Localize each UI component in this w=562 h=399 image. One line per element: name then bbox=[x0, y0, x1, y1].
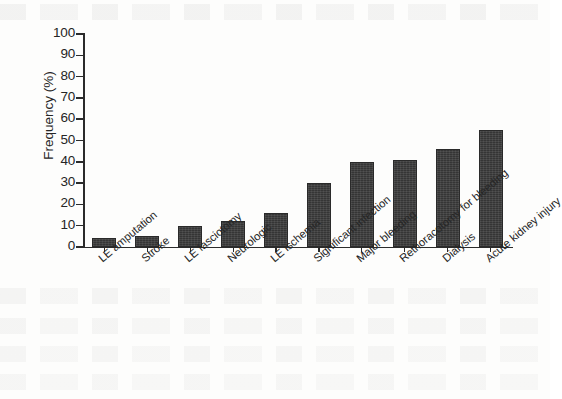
y-tick-label: 10 bbox=[35, 217, 75, 232]
y-tick-mark bbox=[76, 246, 83, 248]
y-tick-mark bbox=[76, 204, 83, 206]
y-tick-label: 20 bbox=[35, 195, 75, 210]
y-tick-label: 100 bbox=[35, 25, 75, 40]
y-tick-label: 90 bbox=[35, 46, 75, 61]
scan-bleed-artifact bbox=[0, 374, 550, 390]
y-tick-mark bbox=[76, 225, 83, 227]
y-tick-mark bbox=[76, 161, 83, 163]
scan-bleed-artifact bbox=[0, 4, 550, 20]
y-tick-label: 30 bbox=[35, 174, 75, 189]
y-tick-label: 40 bbox=[35, 153, 75, 168]
scan-bleed-artifact bbox=[0, 318, 550, 334]
y-tick-label: 70 bbox=[35, 89, 75, 104]
scan-bleed-artifact bbox=[0, 288, 550, 304]
bar bbox=[307, 183, 331, 247]
y-tick-mark bbox=[76, 33, 83, 35]
y-tick-mark bbox=[76, 118, 83, 120]
y-tick-label: 50 bbox=[35, 132, 75, 147]
y-tick-label: 60 bbox=[35, 110, 75, 125]
scan-bleed-artifact bbox=[0, 346, 550, 362]
y-tick-label: 0 bbox=[35, 238, 75, 253]
y-tick-mark bbox=[76, 76, 83, 78]
y-tick-mark bbox=[76, 55, 83, 57]
y-tick-mark bbox=[76, 182, 83, 184]
y-tick-label: 80 bbox=[35, 68, 75, 83]
y-tick-mark bbox=[76, 97, 83, 99]
y-axis-line bbox=[83, 33, 85, 248]
y-tick-mark bbox=[76, 140, 83, 142]
